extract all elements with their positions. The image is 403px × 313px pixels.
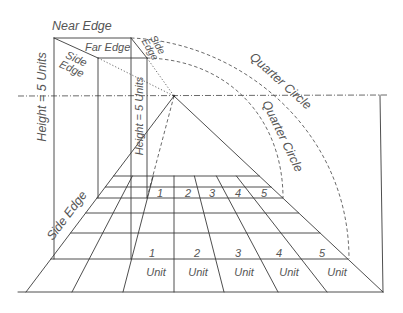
quarter-circle-outer-label: Quarter Circle	[247, 50, 314, 112]
side-edge-bottom-label: Side Edge	[44, 188, 90, 243]
unit-number: 4	[276, 247, 282, 259]
unit-number: 5	[261, 187, 268, 199]
perspective-diagram: Near Edge Far Edge Side Edge Side Edge S…	[0, 0, 403, 313]
unit-label: Unit	[327, 266, 348, 278]
unit-label: Unit	[146, 266, 167, 278]
quarter-circle-outer-arc	[131, 38, 349, 259]
unit-number: 2	[184, 187, 191, 199]
quarter-circle-inner-label: Quarter Circle	[259, 98, 306, 174]
unit-label: Unit	[234, 266, 255, 278]
unit-number: 1	[157, 187, 163, 199]
unit-number: 2	[193, 247, 200, 259]
horizon-line	[18, 95, 388, 96]
unit-number: 5	[319, 247, 326, 259]
unit-label: Unit	[279, 266, 300, 278]
height-inner-label: Height = 5 Units	[133, 76, 145, 155]
vanishing-point	[173, 95, 175, 97]
front-row-unit-labels: Unit Unit Unit Unit Unit	[146, 266, 348, 278]
near-edge-label: Near Edge	[52, 19, 112, 33]
unit-number: 3	[209, 187, 216, 199]
unit-label: Unit	[188, 266, 209, 278]
unit-number: 1	[149, 247, 155, 259]
unit-number: 3	[235, 247, 242, 259]
projection-line	[147, 58, 174, 96]
far-edge-label: Far Edge	[85, 41, 130, 53]
quarter-circle-inner-arc	[147, 58, 283, 198]
diagram-svg: Near Edge Far Edge Side Edge Side Edge S…	[0, 0, 403, 313]
unit-number: 4	[235, 187, 241, 199]
right-measuring-line	[380, 95, 383, 292]
height-outer-label: Height = 5 Units	[35, 52, 49, 141]
